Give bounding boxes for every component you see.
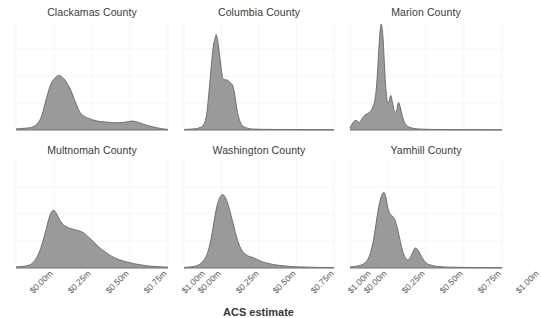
x-tick-label: $0.75m [476, 269, 502, 295]
facet-panel-washington-county: Washington County $0.00m$0.25m$0.50m$0.7… [176, 140, 342, 280]
x-tick-label: $1.00m [514, 269, 540, 295]
panel-title: Yamhill County [342, 144, 510, 156]
density-plot-area [16, 160, 168, 268]
panel-title: Multnomah County [8, 144, 176, 156]
facet-row-bottom: Multnomah County $0.00m$0.25m$0.50m$0.75… [0, 140, 517, 280]
x-axis-ticks: $0.00m$0.25m$0.50m$0.75m$1.00m [350, 268, 502, 280]
x-tick-label: $0.75m [309, 269, 335, 295]
density-curve [16, 160, 168, 268]
panel-title: Columbia County [176, 6, 342, 18]
facet-panel-multnomah-county: Multnomah County $0.00m$0.25m$0.50m$0.75… [8, 140, 176, 280]
density-plot-area [350, 160, 502, 268]
x-tick-label: $0.75m [142, 269, 168, 295]
panel-title: Marion County [342, 6, 510, 18]
facet-panel-marion-county: Marion County [342, 2, 510, 142]
facet-panel-clackamas-county: Clackamas County [8, 2, 176, 142]
density-curve [350, 22, 502, 130]
x-tick-label: $0.00m [196, 269, 222, 295]
x-tick-label: $0.50m [104, 269, 130, 295]
grid-lines [16, 22, 168, 130]
x-tick-label: $0.25m [234, 269, 260, 295]
density-curve [184, 160, 334, 268]
x-tick-label: $0.50m [438, 269, 464, 295]
x-tick-label: $0.25m [66, 269, 92, 295]
panel-title: Washington County [176, 144, 342, 156]
facet-panel-yamhill-county: Yamhill County $0.00m$0.25m$0.50m$0.75m$… [342, 140, 510, 280]
density-plot-area [184, 22, 334, 130]
grid-lines [184, 160, 334, 268]
x-axis-title: ACS estimate [0, 306, 517, 318]
density-plot-area [184, 160, 334, 268]
x-axis-ticks: $0.00m$0.25m$0.50m$0.75m$1.00m [16, 268, 168, 280]
density-curve [350, 160, 502, 268]
x-tick-label: $0.25m [400, 269, 426, 295]
x-tick-label: $0.50m [271, 269, 297, 295]
facet-panel-columbia-county: Columbia County [176, 2, 342, 142]
x-tick-label: $0.00m [362, 269, 388, 295]
density-curve [184, 22, 334, 130]
facet-row-top: Clackamas County Columbia County Marion … [0, 2, 517, 142]
density-plot-area [350, 22, 502, 130]
panel-title: Clackamas County [8, 6, 176, 18]
x-axis-ticks: $0.00m$0.25m$0.50m$0.75m$1.00m [184, 268, 334, 280]
x-tick-label: $0.00m [28, 269, 54, 295]
density-curve [16, 22, 168, 130]
density-plot-area [16, 22, 168, 130]
